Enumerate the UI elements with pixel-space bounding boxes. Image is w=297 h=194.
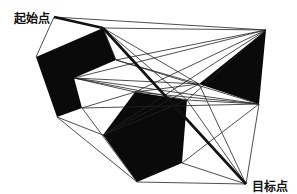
visibility-edge [57, 117, 103, 135]
visibility-edge [182, 104, 259, 163]
visibility-edge [137, 182, 246, 184]
obstacle-1 [36, 28, 116, 117]
goal-label: 目标点 [252, 177, 288, 194]
visibility-edge [74, 78, 187, 100]
start-label: 起始点 [14, 9, 50, 26]
visibility-edge [103, 28, 199, 84]
visibility-edge [246, 104, 259, 184]
visibility-edge [187, 100, 246, 184]
visibility-graph [0, 0, 297, 194]
